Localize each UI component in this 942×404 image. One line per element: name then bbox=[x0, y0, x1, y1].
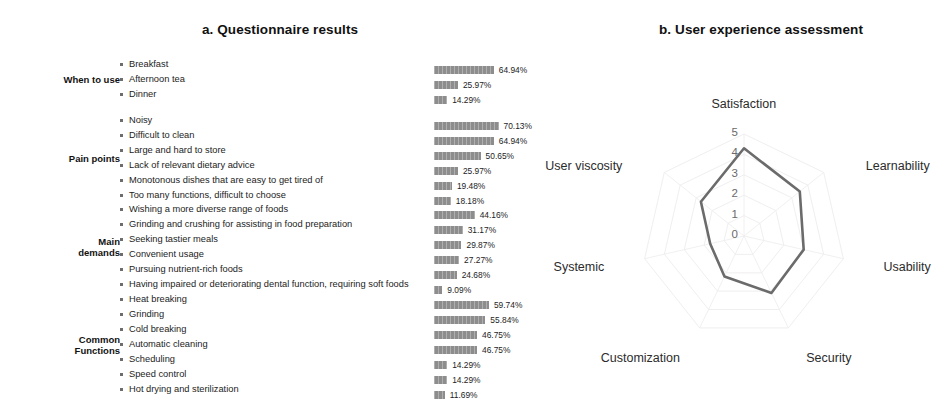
item-label: Wishing a more diverse range of foods bbox=[129, 202, 288, 217]
bullet-icon bbox=[120, 328, 123, 331]
bullet-icon bbox=[120, 283, 123, 286]
bar-with-value: 46.75% bbox=[434, 326, 510, 334]
bar-with-value: 14.29% bbox=[434, 91, 481, 99]
item-label: Grinding and crushing for assisting in f… bbox=[129, 217, 352, 232]
bar-with-value: 50.65% bbox=[434, 147, 514, 155]
percentage-bar bbox=[434, 391, 445, 399]
item-label: Cold breaking bbox=[129, 322, 186, 337]
questionnaire-row: Grinding and crushing for assisting in f… bbox=[120, 217, 580, 232]
item-label: Hot drying and sterilization bbox=[129, 382, 239, 397]
bullet-icon bbox=[120, 298, 123, 301]
bullet-icon bbox=[120, 268, 123, 271]
bar-with-value: 24.68% bbox=[434, 266, 490, 274]
bullet-icon bbox=[120, 63, 123, 66]
item-label: Breakfast bbox=[129, 57, 168, 72]
radar-axis-label: Usability bbox=[883, 260, 930, 274]
bullet-icon bbox=[120, 93, 123, 96]
bar-with-value: 44.16% bbox=[434, 206, 508, 214]
item-label: Large and hard to store bbox=[129, 143, 226, 158]
bullet-icon bbox=[120, 179, 123, 182]
questionnaire-row: Pursuing nutrient-rich foods24.68% bbox=[120, 262, 580, 277]
radar-axis-label: Customization bbox=[601, 351, 680, 365]
bar-with-value: 19.48% bbox=[434, 177, 485, 185]
percentage-bar bbox=[434, 96, 447, 104]
questionnaire-row: Hot drying and sterilization11.69% bbox=[120, 382, 580, 397]
bullet-icon bbox=[120, 164, 123, 167]
item-label: Convenient usage bbox=[129, 247, 204, 262]
bar-value-label: 11.69% bbox=[450, 391, 478, 399]
bar-with-value: 9.09% bbox=[434, 281, 471, 289]
questionnaire-row: Too many functions, difficult to choose1… bbox=[120, 188, 580, 203]
bar-value-label: 14.29% bbox=[452, 96, 480, 104]
bullet-icon bbox=[120, 238, 123, 241]
group-label: When to use bbox=[20, 74, 120, 85]
group-rows: Breakfast64.94%Afternoon tea25.97%Dinner… bbox=[120, 57, 580, 102]
questionnaire-row: Large and hard to store50.65% bbox=[120, 143, 580, 158]
radar-axis-label: Security bbox=[806, 351, 851, 365]
bar-with-value: 27.27% bbox=[434, 251, 492, 259]
bullet-icon bbox=[120, 313, 123, 316]
questionnaire-row: Lack of relevant dietary advice25.97% bbox=[120, 158, 580, 173]
radar-tick-label: 5 bbox=[718, 126, 738, 138]
item-label: Lack of relevant dietary advice bbox=[129, 158, 255, 173]
group-label: Pain points bbox=[20, 153, 120, 164]
item-label: Speed control bbox=[129, 367, 186, 382]
radar-tick-label: 0 bbox=[718, 228, 738, 240]
bullet-icon bbox=[120, 78, 123, 81]
radar-axis-label: User viscosity bbox=[545, 159, 622, 173]
bullet-icon bbox=[120, 119, 123, 122]
questionnaire-results-panel: a. Questionnaire results When to useBrea… bbox=[0, 0, 580, 404]
questionnaire-row: Noisy70.13% bbox=[120, 113, 580, 128]
item-label: Automatic cleaning bbox=[129, 337, 208, 352]
group-label: CommonFunctions bbox=[20, 334, 120, 356]
bullet-icon bbox=[120, 343, 123, 346]
bar-with-value: 18.18% bbox=[434, 192, 484, 200]
bar-with-value: 25.97% bbox=[434, 76, 491, 84]
radar-tick-label: 1 bbox=[718, 208, 738, 220]
questionnaire-row: Seeking tastier meals29.87% bbox=[120, 232, 580, 247]
bar-with-value: 11.69% bbox=[434, 386, 478, 394]
bar-with-value: 14.29% bbox=[434, 371, 481, 379]
questionnaire-row: Cold breaking46.75% bbox=[120, 322, 580, 337]
user-experience-assessment-panel: b. User experience assessment 012345Sati… bbox=[580, 0, 942, 404]
item-label: Too many functions, difficult to choose bbox=[129, 188, 286, 203]
bullet-icon bbox=[120, 134, 123, 137]
bar-with-value: 55.84% bbox=[434, 311, 519, 319]
questionnaire-row: Automatic cleaning46.75% bbox=[120, 337, 580, 352]
radar-chart bbox=[580, 0, 942, 404]
radar-axis-line bbox=[664, 172, 744, 236]
group-rows: Wishing a more diverse range of foods44.… bbox=[120, 202, 580, 292]
radar-series-polygon bbox=[701, 148, 804, 293]
bar-with-value: 25.97% bbox=[434, 162, 491, 170]
group-label: Maindemands bbox=[20, 236, 120, 258]
bar-with-value: 59.74% bbox=[434, 296, 522, 304]
item-label: Scheduling bbox=[129, 352, 175, 367]
radar-axis-label: Satisfaction bbox=[712, 97, 777, 111]
radar-axis-label: Learnability bbox=[866, 159, 930, 173]
item-label: Pursuing nutrient-rich foods bbox=[129, 262, 243, 277]
group-rows: Heat breaking59.74%Grinding55.84%Cold br… bbox=[120, 292, 580, 397]
radar-tick-label: 3 bbox=[718, 167, 738, 179]
bar-with-value: 14.29% bbox=[434, 356, 481, 364]
radar-axis-line bbox=[744, 236, 788, 328]
bar-with-value: 46.75% bbox=[434, 341, 510, 349]
item-label: Dinner bbox=[129, 87, 156, 102]
questionnaire-row: Convenient usage27.27% bbox=[120, 247, 580, 262]
bar-with-value: 31.17% bbox=[434, 221, 496, 229]
questionnaire-row: Having impaired or deteriorating dental … bbox=[120, 277, 580, 292]
item-label: Heat breaking bbox=[129, 292, 187, 307]
questionnaire-row: Breakfast64.94% bbox=[120, 57, 580, 72]
bullet-icon bbox=[120, 208, 123, 211]
questionnaire-row: Heat breaking59.74% bbox=[120, 292, 580, 307]
bullet-icon bbox=[120, 358, 123, 361]
item-label: Grinding bbox=[129, 307, 164, 322]
item-label: Difficult to clean bbox=[129, 128, 194, 143]
questionnaire-row: Afternoon tea25.97% bbox=[120, 72, 580, 87]
item-label: Seeking tastier meals bbox=[129, 232, 218, 247]
bullet-icon bbox=[120, 223, 123, 226]
bullet-icon bbox=[120, 388, 123, 391]
questionnaire-row: Difficult to clean64.94% bbox=[120, 128, 580, 143]
item-label: Noisy bbox=[129, 113, 152, 128]
questionnaire-row: Scheduling14.29% bbox=[120, 352, 580, 367]
group-rows: Noisy70.13%Difficult to clean64.94%Large… bbox=[120, 113, 580, 203]
